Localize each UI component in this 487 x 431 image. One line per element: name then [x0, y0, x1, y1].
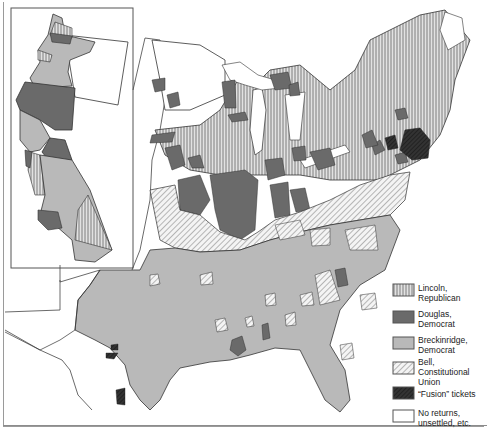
legend-label-bell: Bell, Constitutional Union — [418, 357, 470, 387]
swatch-lincoln — [393, 284, 414, 296]
legend-swatches — [393, 284, 414, 422]
legend-label-douglas: Douglas, Democrat — [418, 309, 455, 329]
swatch-bell — [393, 362, 414, 374]
election-map — [0, 0, 487, 431]
swatch-douglas — [393, 311, 414, 323]
swatch-breckinridge — [393, 337, 414, 349]
legend-label-none: No returns, unsettled, etc. — [418, 408, 471, 428]
swatch-fusion — [393, 387, 414, 399]
legend-label-fusion: “Fusion” tickets — [418, 389, 476, 399]
legend-label-lincoln: Lincoln, Republican — [418, 283, 461, 303]
swatch-none — [393, 410, 414, 422]
legend-label-breckinridge: Breckinridge, Democrat — [418, 335, 468, 355]
inset-map — [11, 8, 133, 268]
